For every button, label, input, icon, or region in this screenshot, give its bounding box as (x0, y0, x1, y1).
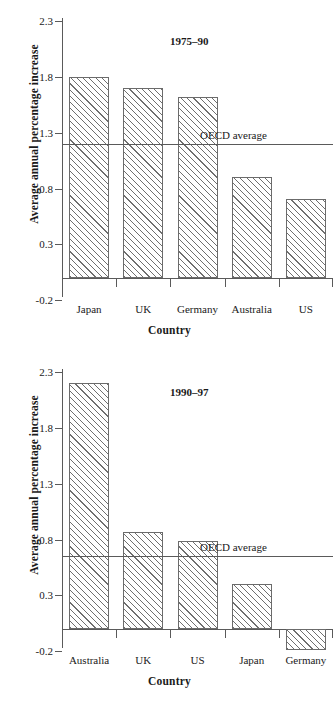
oecd-average-label: OECD average (200, 541, 267, 553)
x-tick-label-germany: Germany (285, 654, 326, 666)
plot-area-chart-1: 2.31.81.30.80.3-0.2JapanUKGermanyAustral… (62, 18, 333, 279)
bar-germany (178, 97, 218, 278)
y-tick-mark (55, 189, 62, 190)
x-tick-label-us: US (299, 303, 313, 315)
x-tick-label-us: US (190, 654, 204, 666)
y-tick-mark (55, 651, 62, 652)
x-tick-label-japan: Japan (77, 303, 102, 315)
y-tick-label: -0.2 (19, 294, 53, 306)
y-tick-label: 0.8 (19, 183, 53, 195)
y-tick-label: 1.3 (19, 127, 53, 139)
y-tick-label: 2.3 (19, 15, 53, 27)
y-tick-mark (55, 77, 62, 78)
y-tick-mark (55, 595, 62, 596)
bar-germany (286, 629, 326, 650)
category-separator (279, 629, 280, 638)
y-tick-mark (55, 484, 62, 485)
y-tick-mark (55, 244, 62, 245)
x-tick-label-uk: UK (135, 654, 151, 666)
category-separator (279, 278, 280, 287)
y-tick-mark (55, 540, 62, 541)
x-tick-label-uk: UK (135, 303, 151, 315)
y-tick-label: 1.3 (19, 478, 53, 490)
bar-japan (232, 584, 272, 629)
y-tick-label: 1.8 (19, 422, 53, 434)
bar-australia (69, 383, 109, 629)
y-tick-label: 0.3 (19, 589, 53, 601)
y-axis-line-chart-2 (62, 369, 63, 648)
plot-area-chart-2: 2.31.81.30.80.3-0.2AustraliaUKUSJapanGer… (62, 369, 333, 630)
category-separator (170, 278, 171, 287)
bar-australia (232, 177, 272, 278)
category-separator (170, 629, 171, 638)
y-tick-label: -0.2 (19, 645, 53, 657)
oecd-average-line (62, 556, 333, 557)
y-tick-mark (55, 300, 62, 301)
x-axis-baseline (62, 278, 333, 279)
category-separator-end (332, 278, 333, 287)
y-axis-line-chart-1 (62, 18, 63, 297)
oecd-average-line (62, 144, 333, 145)
category-separator-end (332, 629, 333, 638)
x-tick-label-australia: Australia (69, 654, 109, 666)
category-separator (116, 629, 117, 638)
category-separator (116, 278, 117, 287)
bar-japan (69, 77, 109, 278)
bar-uk (123, 532, 163, 629)
category-separator (225, 278, 226, 287)
y-tick-label: 2.3 (19, 366, 53, 378)
y-tick-mark (55, 21, 62, 22)
x-tick-label-japan: Japan (239, 654, 264, 666)
x-tick-label-australia: Australia (232, 303, 272, 315)
y-tick-label: 0.3 (19, 238, 53, 250)
y-tick-label: 0.8 (19, 534, 53, 546)
chart-1975-90: Average annual percentage increase 1975–… (0, 0, 334, 351)
y-tick-mark (55, 133, 62, 134)
x-axis-title-chart-2: Country (34, 675, 305, 687)
x-tick-label-germany: Germany (177, 303, 218, 315)
oecd-average-label: OECD average (200, 129, 267, 141)
bar-us (286, 199, 326, 278)
x-axis-title-chart-1: Country (34, 324, 305, 336)
bar-uk (123, 88, 163, 278)
category-separator (225, 629, 226, 638)
chart-1990-97: Average annual percentage increase 1990–… (0, 351, 334, 702)
y-tick-mark (55, 428, 62, 429)
bar-us (178, 541, 218, 629)
y-tick-mark (55, 372, 62, 373)
y-tick-label: 1.8 (19, 71, 53, 83)
